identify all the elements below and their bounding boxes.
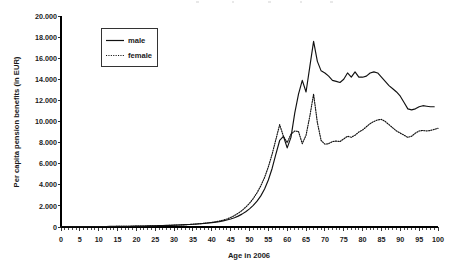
x-tick-label: 60	[283, 235, 291, 244]
x-tick-label: 70	[321, 235, 329, 244]
cropped-caption-artifact	[196, 1, 333, 3]
x-tick-label: 100	[432, 235, 444, 244]
y-tick-label: 6.000	[39, 159, 57, 168]
x-tick-label: 85	[377, 235, 385, 244]
legend-box	[101, 29, 157, 67]
x-axis-title: Age in 2006	[228, 251, 270, 260]
y-tick-label: 16.000	[35, 54, 57, 63]
x-tick-label: 45	[227, 235, 235, 244]
legend-label-male: male	[128, 36, 145, 45]
x-tick-label: 50	[246, 235, 254, 244]
y-tick-label: 14.000	[35, 75, 57, 84]
y-tick-label: 20.000	[35, 12, 57, 21]
y-axis-tick-labels: 20.000 18.000 16.000 14.000 12.000 10.00…	[35, 12, 57, 232]
series-line-male	[61, 41, 434, 226]
y-tick-label: 4.000	[39, 180, 57, 189]
x-tick-label: 40	[208, 235, 216, 244]
legend-label-female: female	[128, 51, 152, 60]
x-axis-tick-labels: 0510152025303540455055606570758085909510…	[59, 235, 444, 244]
x-tick-label: 90	[396, 235, 404, 244]
series-line-female	[61, 94, 438, 227]
x-tick-label: 25	[151, 235, 159, 244]
y-tick-label: 18.000	[35, 33, 57, 42]
y-tick-label: 10.000	[35, 117, 57, 126]
x-tick-label: 15	[114, 235, 122, 244]
y-tick-label: 8.000	[39, 138, 57, 147]
y-tick-label: 0	[53, 223, 57, 232]
x-tick-label: 20	[132, 235, 140, 244]
x-tick-label: 35	[189, 235, 197, 244]
x-tick-label: 95	[415, 235, 423, 244]
x-tick-label: 75	[340, 235, 348, 244]
y-axis	[58, 16, 61, 227]
x-tick-label: 0	[59, 235, 63, 244]
y-tick-label: 12.000	[35, 96, 57, 105]
y-axis-title: Per capita pension benefits (in EUR)	[12, 56, 21, 187]
y-tick-label: 2.000	[39, 202, 57, 211]
chart-container: Per capita pension benefits (in EUR) 20.…	[0, 0, 450, 272]
x-tick-label: 80	[359, 235, 367, 244]
x-tick-label: 5	[78, 235, 82, 244]
x-tick-label: 30	[170, 235, 178, 244]
x-axis-tick-marks	[61, 227, 438, 231]
pension-benefits-line-chart: Per capita pension benefits (in EUR) 20.…	[0, 0, 450, 272]
legend: male female	[101, 29, 157, 67]
x-tick-label: 10	[95, 235, 103, 244]
x-tick-label: 65	[302, 235, 310, 244]
x-tick-label: 55	[264, 235, 272, 244]
